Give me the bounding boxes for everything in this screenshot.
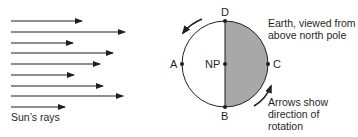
earth-caption-line1: Earth, viewed from	[268, 17, 356, 29]
rotation-note-line3: rotation	[268, 120, 303, 132]
night-side-shading	[225, 21, 268, 107]
rotation-note-line1: Arrows show	[268, 96, 329, 108]
earth-rotation-diagram: Sun’s rays D B A C NP Earth, viewed from…	[0, 0, 358, 137]
point-b-dot	[223, 105, 227, 109]
point-b-label: B	[221, 110, 228, 122]
north-pole-label: NP	[205, 58, 220, 70]
sun-rays-label: Sun’s rays	[11, 111, 60, 123]
point-a-dot	[180, 62, 184, 66]
rotation-arrow-top-left-icon	[183, 19, 202, 33]
sun-rays-group	[11, 21, 125, 107]
rotation-note-line2: direction of	[268, 108, 319, 120]
point-c-dot	[266, 62, 270, 66]
point-d-dot	[223, 19, 227, 23]
earth-circle	[180, 19, 270, 109]
north-pole-dot	[223, 62, 227, 66]
point-d-label: D	[221, 6, 229, 18]
point-a-label: A	[170, 58, 178, 70]
earth-caption-line2: above north pole	[268, 29, 346, 41]
point-c-label: C	[273, 58, 281, 70]
